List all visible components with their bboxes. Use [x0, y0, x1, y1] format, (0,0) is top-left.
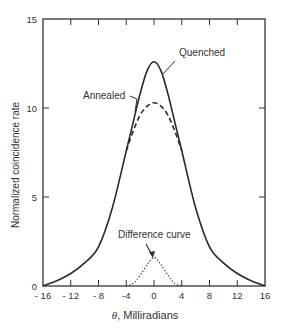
- difference-annotation: Difference curve: [118, 229, 191, 240]
- y-tick-label: 0: [32, 281, 37, 292]
- coincidence-rate-chart: - 16- 12- 8-40481216 051015 Quenched Ann…: [0, 0, 281, 330]
- annealed-curve: [126, 103, 182, 151]
- x-tick-label: 8: [207, 290, 212, 301]
- plot-frame: [43, 19, 265, 286]
- y-tick-label: 15: [26, 14, 37, 25]
- y-tick-label: 10: [26, 103, 37, 114]
- x-tick-label: 16: [260, 290, 271, 301]
- x-axis-label: θ, Milliradians: [112, 309, 179, 321]
- annealed-leader-line: [130, 96, 137, 99]
- x-tick-label: -4: [122, 290, 130, 301]
- x-tick-label: 0: [151, 290, 156, 301]
- x-axis-label-text: , Milliradians: [117, 309, 179, 321]
- y-axis-label: Normalized coincidence rate: [10, 101, 21, 228]
- y-tick-labels: 051015: [26, 14, 37, 292]
- difference-arrowhead: [149, 251, 155, 258]
- axis-ticks: [43, 19, 265, 286]
- quenched-leader-line: [163, 61, 175, 74]
- x-tick-label: - 16: [35, 290, 51, 301]
- x-tick-label: 4: [179, 290, 184, 301]
- y-tick-label: 5: [32, 192, 37, 203]
- annealed-annotation: Annealed: [83, 90, 125, 101]
- x-tick-labels: - 16- 12- 8-40481216: [35, 290, 270, 301]
- x-tick-label: 12: [232, 290, 243, 301]
- x-tick-label: - 12: [63, 290, 79, 301]
- x-tick-label: - 8: [93, 290, 104, 301]
- quenched-annotation: Quenched: [179, 47, 225, 58]
